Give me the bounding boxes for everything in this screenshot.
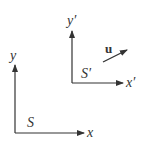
s-prime-y-axis-label: y′ (65, 13, 77, 28)
reference-frames-diagram: y x S y′ x′ S′ u (0, 0, 148, 145)
s-x-axis-label: x (86, 125, 94, 140)
velocity-vector: u (103, 41, 127, 62)
s-y-axis-label: y (8, 48, 17, 63)
s-prime-x-axis-label: x′ (125, 75, 136, 90)
frame-s: y x S (8, 48, 94, 140)
frame-s-prime: y′ x′ S′ (65, 13, 136, 90)
s-frame-label: S (27, 115, 34, 130)
s-prime-frame-label: S′ (81, 66, 92, 81)
velocity-label: u (105, 41, 112, 56)
